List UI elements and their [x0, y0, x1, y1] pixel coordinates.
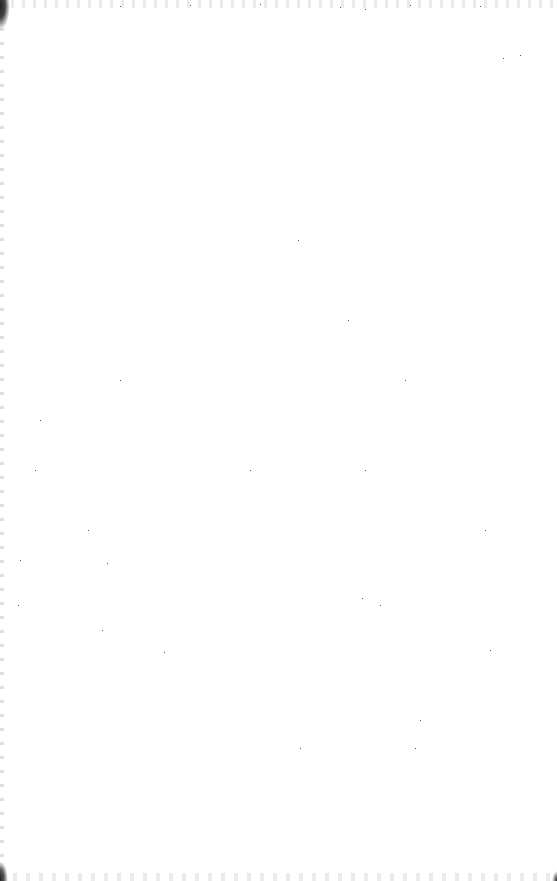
noise-speck — [40, 420, 41, 421]
noise-speck — [490, 650, 491, 651]
noise-speck — [410, 5, 411, 6]
noise-speck — [102, 630, 103, 631]
noise-speck — [20, 560, 21, 561]
noise-speck — [365, 9, 366, 10]
noise-speck — [120, 6, 121, 7]
noise-speck — [348, 320, 349, 321]
noise-speck — [190, 5, 191, 6]
noise-speck — [480, 6, 481, 7]
noise-speck — [250, 470, 251, 471]
noise-speck — [164, 652, 165, 653]
noise-speck — [503, 58, 504, 59]
scan-shadow-bottom-left — [0, 861, 8, 881]
noise-speck — [340, 7, 341, 8]
scan-shadow-top-left — [0, 0, 10, 30]
noise-speck — [405, 380, 406, 381]
noise-speck — [18, 605, 19, 606]
noise-speck — [415, 748, 416, 749]
noise-speck — [88, 530, 89, 531]
noise-speck — [520, 55, 521, 56]
noise-speck — [120, 380, 121, 381]
scan-edge-left — [0, 0, 4, 881]
noise-speck — [485, 530, 486, 531]
noise-speck — [300, 748, 301, 749]
noise-speck — [365, 470, 366, 471]
scan-edge-bottom — [0, 873, 557, 881]
blank-scanned-page — [0, 0, 557, 881]
noise-speck — [35, 470, 36, 471]
noise-speck — [298, 240, 299, 241]
scan-edge-top — [0, 0, 557, 8]
noise-speck — [380, 605, 381, 606]
noise-speck — [420, 720, 421, 721]
noise-speck — [362, 598, 363, 599]
noise-speck — [107, 563, 108, 564]
scan-shadow-bottom-right — [552, 871, 557, 881]
noise-speck — [260, 4, 261, 5]
